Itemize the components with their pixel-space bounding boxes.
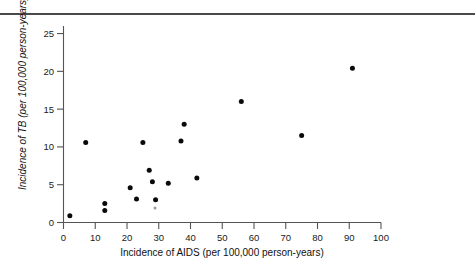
data-point (134, 197, 139, 202)
x-tick-label: 40 (185, 232, 196, 243)
x-tick-label: 30 (153, 232, 164, 243)
data-point (150, 179, 155, 184)
y-tick-label: 20 (43, 66, 54, 77)
x-tick-label: 20 (122, 232, 133, 243)
scatter-plot: 0510152025 0102030405060708090100 Incide… (0, 0, 475, 274)
data-point (299, 133, 304, 138)
x-tick-label: 10 (90, 232, 101, 243)
data-point (102, 208, 107, 213)
data-point-group (67, 66, 355, 218)
data-point (140, 140, 145, 145)
x-tick-label: 60 (249, 232, 260, 243)
axes-group (64, 26, 382, 223)
data-point (147, 168, 152, 173)
x-axis-title: Incidence of AIDS (per 100,000 person-ye… (120, 247, 323, 258)
y-tick-label: 15 (43, 104, 54, 115)
data-point (182, 122, 187, 127)
x-tick-label: 90 (344, 232, 355, 243)
y-tick-label: 25 (43, 28, 54, 39)
x-tick-label: 0 (61, 232, 66, 243)
x-tick-label: 100 (373, 232, 389, 243)
y-tick-label: 5 (49, 179, 54, 190)
x-tick-label: 70 (280, 232, 291, 243)
data-point (239, 99, 244, 104)
y-tick-label: 0 (49, 217, 54, 228)
y-axis-title: Incidence of TB (per 100,000 person-year… (17, 0, 28, 190)
data-point (128, 185, 133, 190)
x-tick-label: 80 (312, 232, 323, 243)
data-point (83, 140, 88, 145)
x-tick-label: 50 (217, 232, 228, 243)
chart-svg: 0510152025 0102030405060708090100 Incide… (0, 0, 475, 274)
data-point (153, 197, 158, 202)
y-tick-group: 0510152025 (43, 28, 63, 228)
data-point (67, 213, 72, 218)
faint-data-point (154, 207, 157, 210)
figure-container: 0510152025 0102030405060708090100 Incide… (0, 0, 475, 274)
y-tick-label: 10 (43, 141, 54, 152)
data-point (194, 175, 199, 180)
data-point (178, 138, 183, 143)
data-point (166, 181, 171, 186)
x-tick-group: 0102030405060708090100 (61, 223, 389, 244)
data-point (102, 201, 107, 206)
data-point (350, 66, 355, 71)
